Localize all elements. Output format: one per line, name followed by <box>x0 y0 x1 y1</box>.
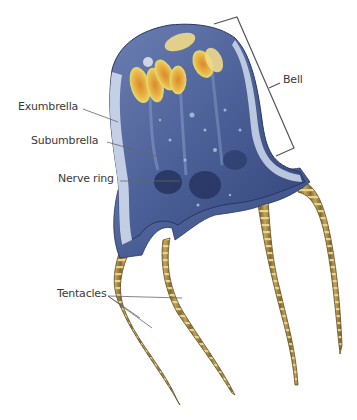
label-tentacles: Tentacles <box>57 287 106 300</box>
label-exumbrella: Exumbrella <box>18 100 78 113</box>
label-bell: Bell <box>283 73 303 86</box>
jellyfish-illustration <box>0 0 357 420</box>
label-subumbrella: Subumbrella <box>31 134 98 147</box>
label-nerve-ring: Nerve ring <box>58 172 114 185</box>
